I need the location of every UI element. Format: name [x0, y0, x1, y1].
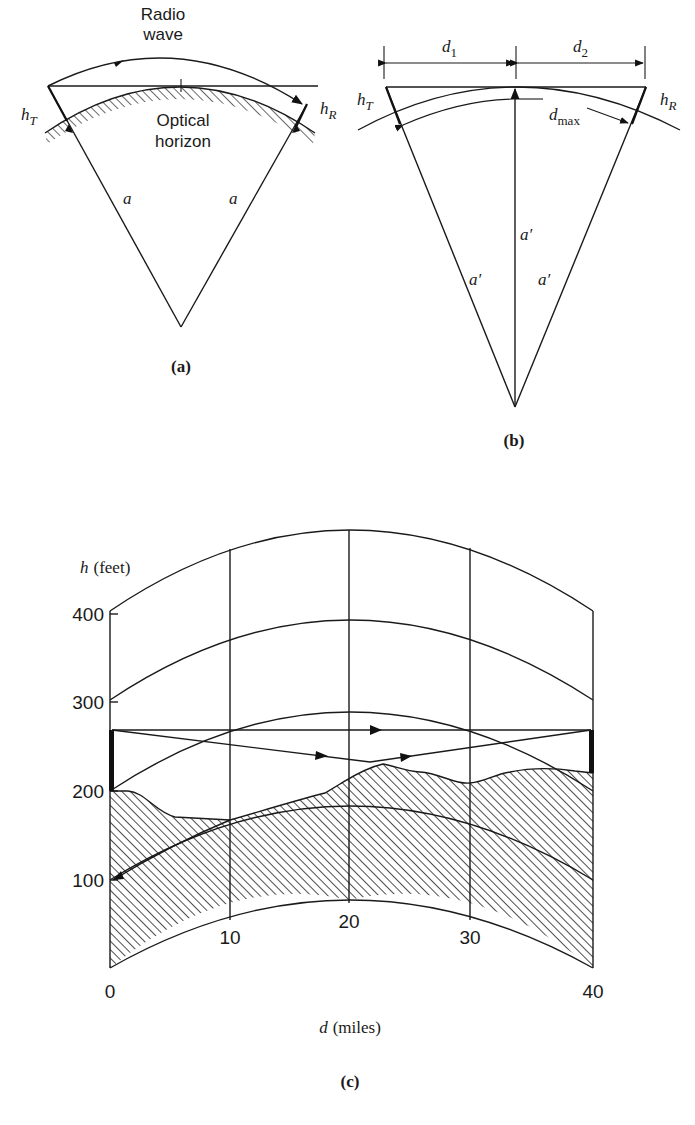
- ytick-label-100: 100: [72, 870, 104, 891]
- xtick-label-0: 0: [105, 981, 116, 1002]
- ytick-label-300: 300: [72, 692, 104, 713]
- dmax-label: dmax: [549, 105, 580, 128]
- dmax-leader-right: [587, 108, 628, 123]
- tx-tower: [109, 730, 114, 791]
- radius-right-b: [515, 87, 646, 407]
- caption-a: (a): [171, 357, 191, 376]
- optical-horizon-label-1: Optical: [157, 111, 210, 130]
- ytick-label-200: 200: [72, 781, 104, 802]
- radius-a-prime-left: a′: [469, 270, 482, 289]
- direct-ray-arrow: [370, 725, 382, 735]
- optical-horizon-label-2: horizon: [155, 132, 211, 151]
- terrain-ground: [110, 764, 593, 968]
- reflected-ray-arrow-1: [315, 751, 328, 760]
- figure-a: Radio wave Optical horizon hT hR a a (a): [21, 5, 337, 376]
- radio-wave-label-1: Radio: [141, 5, 185, 24]
- figure-b: d1 d2 dmax hT hR a′ a′ a′ (b): [357, 37, 680, 450]
- d2-label: d2: [573, 37, 588, 60]
- reflected-ray-arrow-2: [400, 753, 412, 762]
- h-t-label: hT: [21, 105, 38, 128]
- radius-left-b: [386, 87, 515, 407]
- antenna-rx-b: [632, 87, 646, 124]
- propagation-figure: Radio wave Optical horizon hT hR a a (a): [0, 0, 695, 1125]
- radio-wave-label-2: wave: [142, 25, 183, 44]
- figure-c: h(feet) 400 300 200 100 0 10 20 30 40 d(…: [72, 530, 603, 1091]
- d1-label: d1: [442, 37, 457, 60]
- ytick-label-400: 400: [72, 604, 104, 625]
- rx-tower: [589, 730, 594, 773]
- xtick-label-30: 30: [459, 927, 480, 948]
- caption-c: (c): [341, 1072, 360, 1091]
- antenna-tx: [48, 86, 67, 121]
- radius-a-left: a: [123, 189, 132, 208]
- h-r-label: hR: [320, 99, 337, 122]
- h-r-label-b: hR: [660, 90, 677, 113]
- radius-a-prime-right: a′: [538, 270, 551, 289]
- antenna-tx-b: [386, 87, 400, 124]
- radius-a-right: a: [229, 189, 238, 208]
- reflected-ray: [112, 730, 591, 762]
- xtick-label-40: 40: [582, 981, 603, 1002]
- grid-curve-300: [110, 620, 593, 700]
- y-axis-label: h(feet): [80, 558, 130, 577]
- xtick-label-20: 20: [338, 911, 359, 932]
- x-axis-label: d(miles): [319, 1018, 381, 1037]
- xtick-label-10: 10: [219, 927, 240, 948]
- radius-a-prime-center: a′: [520, 225, 533, 244]
- grid-curve-400: [110, 530, 593, 611]
- h-t-label-b: hT: [357, 90, 374, 113]
- caption-b: (b): [504, 431, 525, 450]
